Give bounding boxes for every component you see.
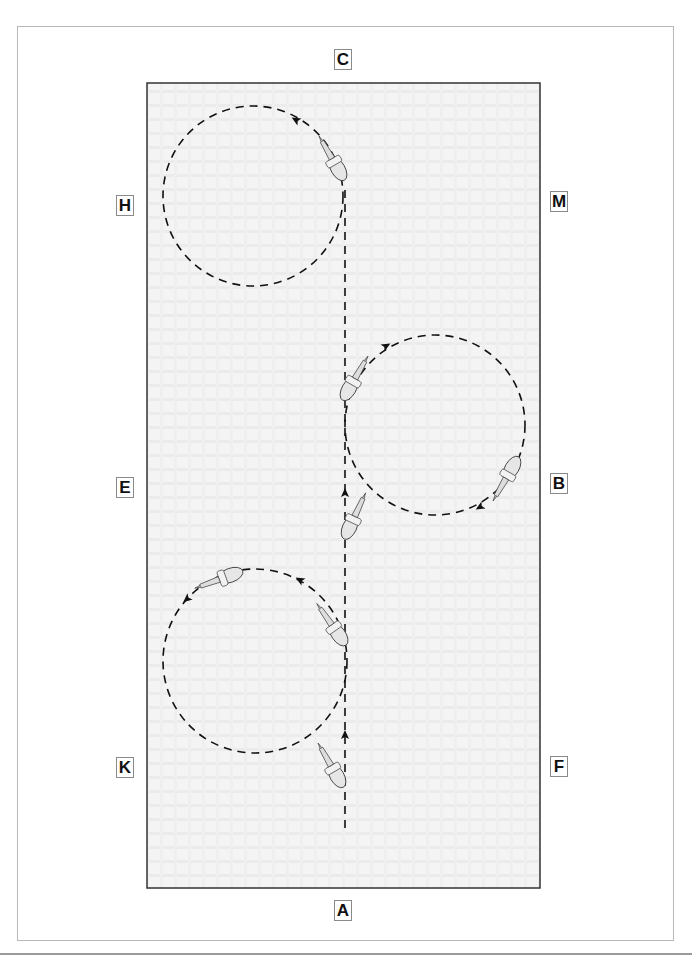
marker-k: K [116,757,134,778]
marker-c: C [334,49,352,70]
arena-diagram [0,0,692,961]
arena [147,83,540,888]
marker-a: A [334,900,352,921]
marker-h: H [116,195,134,216]
marker-f: F [550,756,568,777]
marker-b: B [550,473,568,494]
marker-m: M [550,191,568,212]
marker-e: E [116,477,134,498]
